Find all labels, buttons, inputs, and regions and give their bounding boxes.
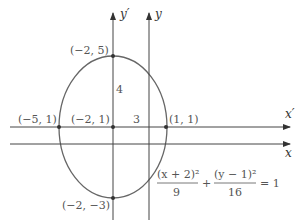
label-top-vertex: (−2, 5)	[70, 44, 109, 57]
ellipse-equation: (x + 2)² 9 + (y − 1)² 16 = 1	[157, 168, 280, 199]
label-left-vertex: (−5, 1)	[18, 113, 57, 126]
label-right-vertex: (1, 1)	[169, 113, 199, 126]
point-top-vertex	[111, 54, 115, 58]
equation-term1-denominator: 9	[173, 186, 180, 199]
equation-term2-denominator: 16	[228, 186, 242, 199]
semi-axis-vertical-length: 4	[116, 83, 123, 96]
x-axis-label: x	[285, 146, 292, 160]
label-center: (−2, 1)	[71, 113, 110, 126]
label-bottom-vertex: (−2, −3)	[62, 199, 110, 212]
equation-term2-numerator: (y − 1)²	[214, 168, 256, 181]
semi-axis-horizontal-length: 3	[133, 113, 140, 126]
equation-rhs: = 1	[260, 177, 280, 190]
equation-plus: +	[202, 177, 211, 190]
point-bottom-vertex	[111, 196, 115, 200]
y-axis-label: y	[154, 7, 162, 21]
point-left-vertex	[57, 125, 61, 129]
point-right-vertex	[164, 125, 168, 129]
equation-term1-numerator: (x + 2)²	[157, 168, 199, 181]
y-prime-axis-label: y′	[119, 7, 130, 21]
x-prime-axis-label: x′	[285, 107, 295, 121]
point-center	[111, 125, 115, 129]
ellipse-diagram: y′ y x′ x (−2, 5) (−5, 1) (−2, 1) (1, 1)…	[0, 0, 301, 224]
